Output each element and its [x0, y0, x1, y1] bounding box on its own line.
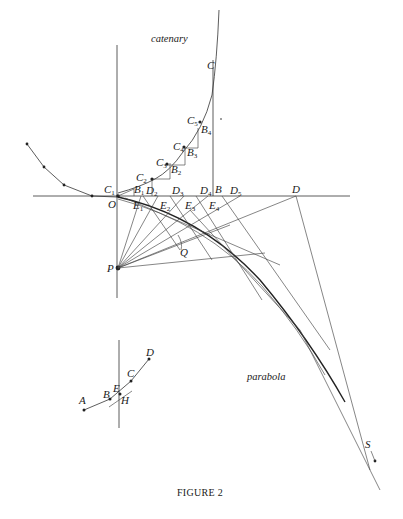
inset-label-D: D: [145, 346, 154, 358]
label-B: B: [215, 183, 222, 195]
inset-label-A: A: [78, 394, 86, 406]
inset-label-B: B: [103, 388, 110, 400]
label-D2: D2: [145, 184, 158, 198]
step-C4-B4: [184, 128, 198, 148]
label-P: P: [106, 262, 114, 274]
chain-dot-1: [26, 143, 29, 146]
ray-P-Q-2: [118, 225, 230, 268]
inset-point-A: [83, 409, 86, 412]
label-B4: B4: [201, 123, 212, 137]
parabola-tail: [300, 330, 380, 490]
label-E1: E1: [132, 199, 144, 213]
inset-label-H: H: [120, 394, 130, 406]
label-D: D: [291, 183, 300, 195]
label-D3: D3: [171, 184, 184, 198]
label-C: C: [207, 59, 215, 71]
perp-D5: [222, 196, 330, 350]
label-Q: Q: [180, 246, 188, 258]
label-S: S: [365, 438, 371, 450]
label-C4: C4: [173, 140, 184, 154]
label-E4: E4: [208, 199, 220, 213]
chain-dot-3: [63, 184, 66, 187]
chain-dot-4: [91, 195, 94, 198]
stray-dot: [220, 118, 222, 120]
tangent-2: [190, 210, 300, 330]
chain-dot-2: [43, 166, 46, 169]
tangent-1: [125, 198, 280, 265]
label-E3: E3: [184, 199, 196, 213]
label-C3: C3: [156, 156, 167, 170]
label-D4: D4: [199, 184, 212, 198]
figure-2-diagram: catenary parabola C C5 C4 C3 C2 C1 B4 B3…: [0, 0, 403, 519]
label-D5: D5: [229, 184, 242, 198]
parabola-curve: [118, 197, 345, 402]
label-O: O: [108, 198, 116, 210]
label-C5: C5: [187, 114, 198, 128]
label-parabola: parabola: [246, 371, 286, 382]
label-catenary: catenary: [151, 33, 188, 44]
point-C2: [150, 177, 153, 180]
figure-caption: FIGURE 2: [177, 487, 223, 498]
perp-D4: [196, 196, 262, 300]
inset-label-C: C: [127, 367, 135, 379]
inset-point-C: [130, 380, 133, 383]
arrow-S: [371, 451, 375, 461]
label-C1: C1: [104, 183, 115, 197]
label-B1: B1: [134, 183, 145, 197]
inset-label-E: E: [112, 382, 120, 394]
perp-D: [296, 196, 370, 470]
label-E2: E2: [159, 199, 171, 213]
